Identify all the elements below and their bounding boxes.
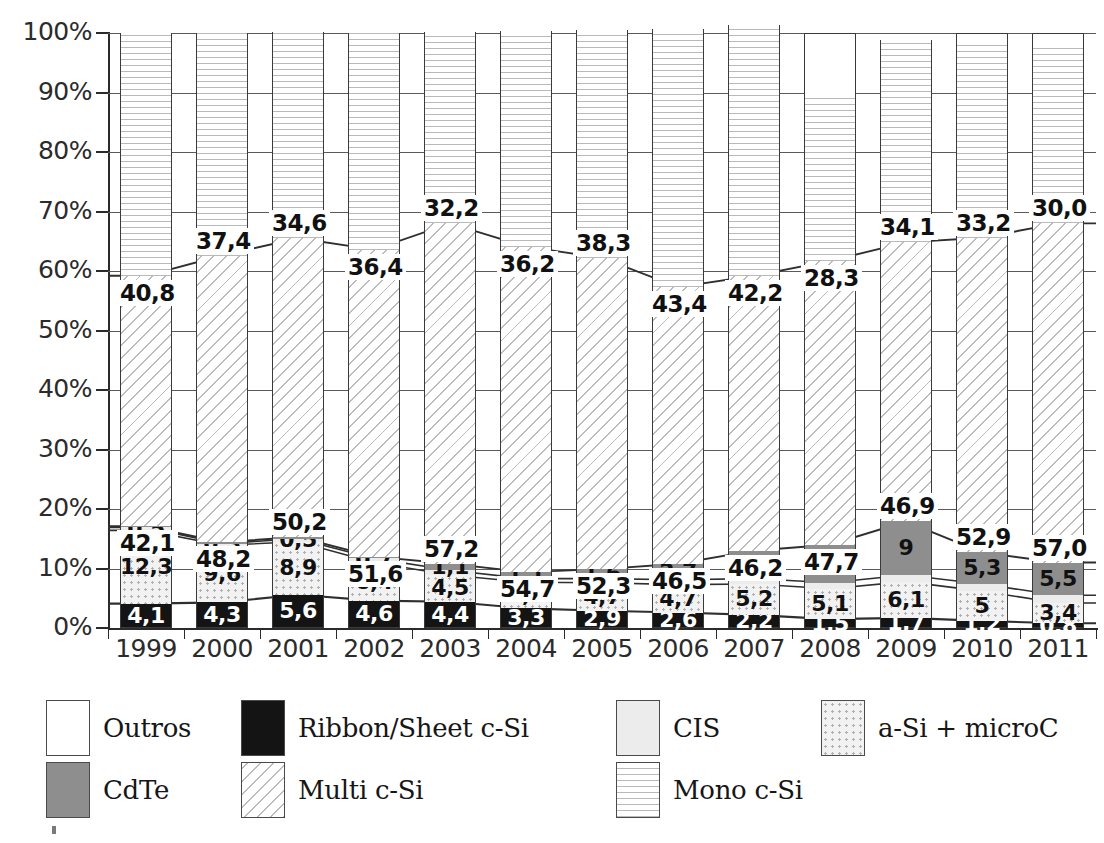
segment-value-label: 4,4 <box>424 604 476 626</box>
multi-c-si-value-label: 46,2 <box>725 555 786 581</box>
multi-c-si-value-label: 46,5 <box>649 568 710 594</box>
segment-value-label: 2,9 <box>576 608 628 630</box>
bar-segment-multi-c-si <box>196 256 248 543</box>
stacked-bar-chart: 0%10%20%30%40%50%60%70%80%90%100% 199920… <box>0 0 1104 843</box>
legend-row: OutrosRibbon/Sheet c-SiCISa-Si + microC <box>46 700 1076 762</box>
bar-column: 1,76,19 <box>880 33 932 628</box>
x-axis-tick <box>488 628 489 639</box>
legend-swatch-mono-c-si <box>616 762 660 818</box>
legend-label-a-si-microc: a-Si + microC <box>878 713 1058 743</box>
mono-c-si-value-label: 40,8 <box>117 280 178 306</box>
multi-c-si-value-label: 42,1 <box>117 530 178 556</box>
mono-c-si-value-label: 34,1 <box>877 214 938 240</box>
mono-c-si-value-label: 34,6 <box>269 210 330 236</box>
bar-segment-mono-c-si <box>576 30 628 258</box>
bar-segment-cdte <box>348 557 400 559</box>
mono-c-si-value-label: 36,2 <box>497 251 558 277</box>
segment-value-label: 5,5 <box>1032 568 1084 590</box>
bar-segment-multi-c-si <box>272 238 324 537</box>
bar-segment-mono-c-si <box>728 25 780 276</box>
bar-segment-multi-c-si <box>1032 223 1084 562</box>
legend-swatch-cis <box>616 700 660 756</box>
bar-segment-multi-c-si <box>500 247 552 572</box>
x-axis-tick-label: 2003 <box>412 634 488 663</box>
legend-item-ribbon-sheet-c-si[interactable]: Ribbon/Sheet c-Si <box>241 700 529 756</box>
x-axis-tick <box>412 628 413 639</box>
legend-item-a-si-microc[interactable]: a-Si + microC <box>821 700 1058 756</box>
x-axis-tick <box>260 628 261 639</box>
bar-segment-cis <box>956 584 1008 591</box>
x-axis-tick-label: 2006 <box>640 634 716 663</box>
x-axis-tick-label: 2009 <box>868 634 944 663</box>
x-axis-tick-label: 2010 <box>944 634 1020 663</box>
x-axis-tick <box>1020 628 1021 639</box>
mono-c-si-value-label: 38,3 <box>573 230 634 256</box>
multi-c-si-value-label: 51,6 <box>345 561 406 587</box>
y-axis-tick-label: 30% <box>6 434 92 463</box>
x-axis-tick <box>716 628 717 639</box>
x-axis-tick-label: 2000 <box>184 634 260 663</box>
mono-c-si-value-label: 37,4 <box>193 228 254 254</box>
multi-c-si-value-label: 54,7 <box>497 576 558 602</box>
x-axis-tick-label: 2005 <box>564 634 640 663</box>
bar-column: 4,39,60,3 <box>196 33 248 628</box>
x-axis-tick <box>1096 628 1097 639</box>
bar-segment-outros <box>956 33 1008 40</box>
segment-value-label: 4,3 <box>196 604 248 626</box>
bar-segment-mono-c-si <box>272 32 324 238</box>
y-axis-tick-label: 10% <box>6 553 92 582</box>
mono-c-si-value-label: 43,4 <box>649 291 710 317</box>
x-axis-tick <box>108 628 109 639</box>
x-axis-tick-label: 2001 <box>260 634 336 663</box>
segment-value-label: 4,5 <box>424 577 476 599</box>
legend-label-mono-c-si: Mono c-Si <box>673 775 803 805</box>
legend-swatch-a-si-microc <box>821 700 865 756</box>
segment-value-label: 2,6 <box>652 609 704 631</box>
bar-segment-mono-c-si <box>500 31 552 246</box>
bar-segment-cis <box>880 575 932 582</box>
y-axis-tick-label: 80% <box>6 136 92 165</box>
x-axis-tick-label: 2011 <box>1020 634 1096 663</box>
multi-c-si-value-label: 52,9 <box>953 524 1014 550</box>
legend-item-cis[interactable]: CIS <box>616 700 720 756</box>
bar-segment-multi-c-si <box>956 238 1008 553</box>
y-axis-tick-label: 0% <box>6 612 92 641</box>
mono-c-si-value-label: 42,2 <box>725 280 786 306</box>
y-axis-tick-label: 100% <box>6 17 92 46</box>
mono-c-si-value-label: 36,4 <box>345 254 406 280</box>
segment-value-label: 5,1 <box>804 593 856 615</box>
bar-segment-cdte <box>120 526 172 527</box>
x-axis-tick <box>336 628 337 639</box>
segment-value-label: 3,3 <box>500 607 552 629</box>
segment-value-label: 5 <box>956 595 1008 617</box>
bar-segment-mono-c-si <box>880 40 932 243</box>
legend-item-multi-c-si[interactable]: Multi c-Si <box>241 762 423 818</box>
bar-segment-mono-c-si <box>956 40 1008 238</box>
bar-column: 2,94,71,6 <box>576 33 628 628</box>
x-axis-tick-label: 2008 <box>792 634 868 663</box>
x-axis-tick-label: 2007 <box>716 634 792 663</box>
multi-c-si-value-label: 46,9 <box>877 493 938 519</box>
segment-value-label: 4,1 <box>120 605 172 627</box>
bar-segment-cdte <box>196 542 248 543</box>
legend-label-ribbon-sheet-c-si: Ribbon/Sheet c-Si <box>298 713 529 743</box>
bar-column: 1,55,16,4 <box>804 33 856 628</box>
bar-column: 2,64,72,7 <box>652 33 704 628</box>
y-axis-tick-label: 20% <box>6 493 92 522</box>
mono-c-si-value-label: 28,3 <box>801 265 862 291</box>
bar-column: 3,34,41,1 <box>500 33 552 628</box>
legend-item-cdte[interactable]: CdTe <box>46 762 169 818</box>
bar-segment-outros <box>804 33 856 93</box>
legend-swatch-multi-c-si <box>241 762 285 818</box>
multi-c-si-value-label: 57,0 <box>1029 535 1090 561</box>
segment-value-label: 3,4 <box>1032 602 1084 624</box>
x-axis-tick <box>564 628 565 639</box>
segment-value-label: 5,2 <box>728 588 780 610</box>
legend-item-mono-c-si[interactable]: Mono c-Si <box>616 762 803 818</box>
legend-label-cis: CIS <box>673 713 720 743</box>
legend-item-outros[interactable]: Outros <box>46 700 191 756</box>
x-axis-tick-label: 2004 <box>488 634 564 663</box>
bar-segment-mono-c-si <box>120 33 172 276</box>
bar-segment-mono-c-si <box>804 93 856 261</box>
bar-segment-mono-c-si <box>652 29 704 287</box>
